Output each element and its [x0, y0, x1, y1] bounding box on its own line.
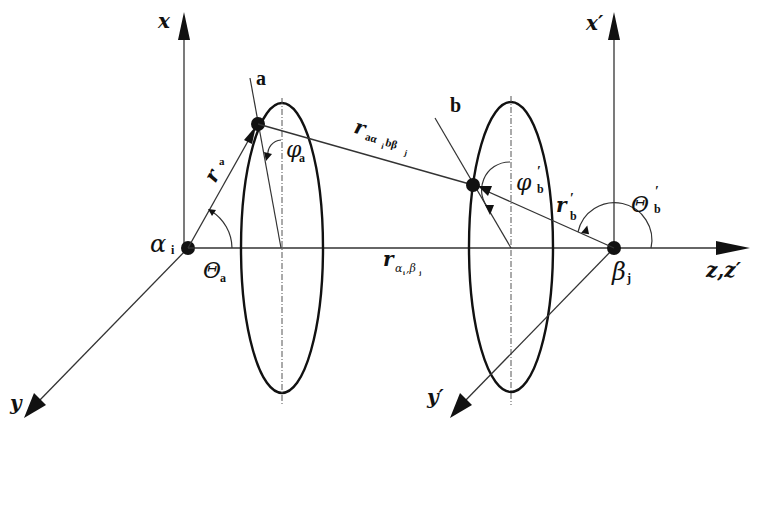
- point-b-label: b: [450, 94, 461, 116]
- phi-b-prime-sub: b: [537, 182, 544, 196]
- r-ab-sub: aα: [364, 130, 379, 145]
- x-prime-axis-label: x′: [585, 11, 604, 35]
- vector-r-b-prime: r ′ b: [478, 186, 614, 248]
- beta-frame: x′ y′ β j: [426, 11, 631, 418]
- beta-origin-sub: j: [626, 271, 631, 285]
- r-ab-sub4: j: [402, 148, 408, 158]
- theta-b-prime-sub: b: [654, 202, 661, 216]
- angle-phi-a: φ a: [264, 137, 305, 165]
- r-alpha-beta-sub2: i: [403, 269, 405, 277]
- theta-a-label: Θ: [203, 258, 221, 283]
- x-axis-label: x: [157, 9, 171, 33]
- two-center-coordinate-diagram: x y α i z,z′ x′ y′ β j r a: [0, 0, 758, 512]
- theta-b-prime-label: Θ: [631, 192, 649, 217]
- beta-origin-label: β: [611, 258, 626, 286]
- r-alpha-beta-sub: α: [395, 262, 403, 275]
- orbital-b: [469, 96, 553, 405]
- y-axis: [38, 248, 188, 402]
- z-axis-label: z,z′: [705, 258, 742, 282]
- alpha-frame: x y α i: [9, 9, 195, 418]
- orbital-a: [241, 98, 323, 405]
- r-b-prime-prime: ′: [570, 191, 574, 206]
- y-prime-axis-label: y′: [426, 385, 445, 409]
- x-prime-axis-arrowhead-icon: [608, 12, 620, 40]
- x-axis-arrowhead-icon: [178, 12, 190, 40]
- point-b: b: [435, 94, 511, 248]
- y-axis-label: y: [9, 391, 23, 415]
- r-a-sub: a: [219, 155, 225, 167]
- theta-b-prime-prime: ′: [655, 184, 659, 199]
- point-a-label: a: [256, 67, 266, 89]
- angle-theta-a: Θ a: [203, 209, 232, 285]
- r-b-prime-sub: b: [570, 209, 577, 223]
- r-a-label: r: [199, 164, 226, 186]
- phi-a-sub: a: [299, 151, 305, 165]
- theta-a-sub: a: [220, 271, 226, 285]
- r-alpha-beta-sub3: ,β: [406, 262, 416, 275]
- theta-a-arrowhead-icon: [208, 209, 216, 216]
- alpha-origin-label: α: [150, 230, 166, 258]
- point-b-dot: [466, 178, 480, 192]
- r-ab-sub3: bβ: [384, 136, 399, 151]
- phi-b-prime-prime: ′: [537, 164, 541, 179]
- phi-b-prime-label: φ: [516, 170, 532, 195]
- angle-theta-b-prime: Θ ′ b: [578, 184, 661, 248]
- r-b-prime-label: r: [556, 193, 568, 217]
- z-axis-arrowhead-icon: [716, 241, 750, 255]
- r-alpha-beta-label-group: r α i ,β j: [383, 247, 421, 277]
- phi-b-prime-arrowhead-icon: [485, 205, 494, 215]
- r-alpha-beta-sub4: j: [418, 269, 421, 277]
- r-alpha-beta-label: r: [383, 247, 395, 271]
- y-prime-axis: [464, 248, 614, 402]
- alpha-origin-sub: i: [171, 243, 175, 257]
